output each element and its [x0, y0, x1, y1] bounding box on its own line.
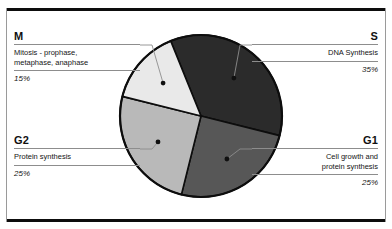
callout-g1-description: Cell growth and protein synthesis — [252, 149, 378, 174]
callout-m[interactable]: M Mitosis - prophase, metaphase, anaphas… — [14, 30, 140, 84]
callout-g1[interactable]: G1 Cell growth and protein synthesis 25% — [252, 134, 378, 188]
leader-marker-m — [161, 81, 166, 86]
leader-marker-g2 — [156, 140, 161, 145]
leader-marker-g1 — [225, 157, 230, 162]
callout-m-percent: 15% — [14, 71, 140, 84]
leader-marker-s — [232, 76, 237, 81]
callout-m-description: Mitosis - prophase, metaphase, anaphase — [14, 45, 140, 70]
callout-g2-description: Protein synthesis — [14, 149, 140, 165]
callout-g2-heading: G2 — [14, 134, 140, 146]
callout-g2[interactable]: G2 Protein synthesis 25% — [14, 134, 140, 179]
callout-g2-percent: 25% — [14, 166, 140, 179]
callout-s-heading: S — [252, 30, 378, 42]
callout-s-description: DNA Synthesis — [252, 45, 378, 61]
callout-g1-heading: G1 — [252, 134, 378, 146]
callout-s-percent: 35% — [252, 62, 378, 75]
callout-s[interactable]: S DNA Synthesis 35% — [252, 30, 378, 75]
callout-m-heading: M — [14, 30, 140, 42]
figure-canvas: M Mitosis - prophase, metaphase, anaphas… — [0, 0, 392, 229]
callout-g1-percent: 25% — [252, 175, 378, 188]
